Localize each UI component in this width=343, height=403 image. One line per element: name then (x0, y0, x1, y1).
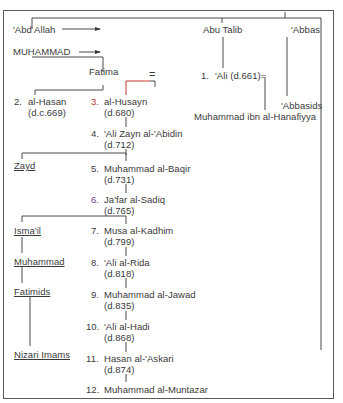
imam-12-number: 12. (86, 384, 99, 395)
ancestor-abd-allah: 'Abd Allah (13, 24, 55, 35)
branch-nizari-imams: Nizari Imams (14, 349, 70, 360)
imam-4-death: (d.712) (104, 139, 134, 150)
imam-5-number: 5. (91, 163, 99, 174)
imam-10-number: 10. (86, 321, 99, 332)
imam-11-name: Hasan al-'Askari (104, 353, 174, 364)
imam-11-death: (d.874) (104, 364, 134, 375)
imam-2-name: al-Hasan (28, 96, 66, 107)
imam-3-death: (d.680) (104, 107, 134, 118)
imam-6-name: Ja'far al-Sadiq (104, 194, 165, 205)
imam-10-name: 'Ali al-Hadi (104, 321, 150, 332)
imam-6-death: (d.765) (104, 205, 134, 216)
imam-11-number: 11. (86, 353, 99, 364)
imam-9-name: Muhammad al-Jawad (104, 289, 196, 300)
imam-9-death: (d.835) (104, 300, 134, 311)
imam-2-death: (d.c.669) (28, 107, 66, 118)
imam-2-number: 2. (14, 96, 22, 107)
imam-10-death: (d.868) (104, 332, 134, 343)
imam-3-number: 3. (91, 96, 99, 107)
marriage-symbol: = (149, 69, 155, 80)
imam-5-name: Muhammad al-Baqir (104, 163, 190, 174)
ancestor-abu-talib: Abu Talib (203, 24, 242, 35)
imam-4-number: 4. (91, 128, 99, 139)
imam-7-name: Musa al-Kadhim (104, 225, 173, 236)
imam-3-name: al-Husayn (104, 96, 147, 107)
branch-muhammad-ibn-ismail: Muhammad (14, 256, 65, 267)
fatima: Fatima (89, 66, 118, 77)
imam-12-name: Muhammad al-Muntazar (104, 384, 208, 395)
imam-8-number: 8. (91, 257, 99, 268)
branch-hanafiyya: Muhammad ibn al-Hanafiyya (194, 111, 316, 122)
imam-7-death: (d.799) (104, 236, 134, 247)
imam-1-ali: 'Ali (d.661)= (215, 70, 266, 81)
imam-6-number: 6. (91, 194, 99, 205)
imam-1-number: 1. (201, 70, 209, 81)
imam-7-number: 7. (91, 225, 99, 236)
imam-8-death: (d.818) (104, 268, 134, 279)
branch-zayd: Zayd (14, 160, 35, 171)
branch-fatimids: Fatimids (14, 286, 50, 297)
imam-5-death: (d.731) (104, 174, 134, 185)
connector-lines (0, 0, 343, 403)
branch-ismail: Isma'il (14, 225, 41, 236)
ancestor-muhammad: MUHAMMAD (13, 46, 70, 57)
imam-9-number: 9. (91, 289, 99, 300)
imam-4-name: 'Ali Zayn al-'Abidin (104, 128, 183, 139)
ancestor-abbas: 'Abbas (291, 24, 320, 35)
branch-abbasids: 'Abbasids (281, 100, 322, 111)
imam-8-name: 'Ali al-Rida (104, 257, 150, 268)
